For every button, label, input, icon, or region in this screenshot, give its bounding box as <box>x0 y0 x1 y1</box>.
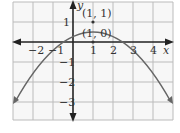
axis-point-annotation: (1, 0) <box>82 27 112 40</box>
y-tick-label: −3 <box>59 96 75 109</box>
x-tick-label: 2 <box>110 44 117 57</box>
vertex-point <box>91 20 94 23</box>
x-tick-label: 4 <box>150 44 157 57</box>
y-tick-label: 1 <box>63 16 70 29</box>
y-tick-label: −1 <box>59 56 75 69</box>
y-tick-label: −2 <box>59 76 75 89</box>
x-tick-label: 3 <box>130 44 137 57</box>
vertex-annotation: (1, 1) <box>82 7 112 20</box>
x-tick-label: −2 <box>28 44 44 57</box>
x-tick-label: 1 <box>90 44 97 57</box>
parabola-chart: y x (1, 1) (1, 0) −2 −1 1 2 3 4 1 −1 −2 … <box>0 0 180 133</box>
x-axis-label: x <box>163 44 170 57</box>
